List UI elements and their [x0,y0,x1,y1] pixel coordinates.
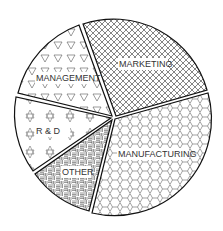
label-rd: R & D [36,126,61,136]
label-other: OTHER [62,167,94,177]
pie-chart: MARKETING MANAGEMENT R & D MANUFACTURING… [0,0,223,231]
label-marketing: MARKETING [119,59,173,69]
label-manufacturing: MANUFACTURING [118,149,197,159]
label-management: MANAGEMENT [36,73,101,83]
